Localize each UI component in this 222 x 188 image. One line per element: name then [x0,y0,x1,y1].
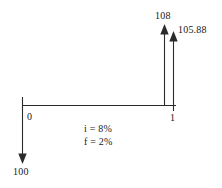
inflow-108-label: 108 [155,11,171,21]
cash-flow-diagram: 108 105.88 0 1 100 i = 8% f = 2% [0,0,222,188]
outflow-arrow-head [18,154,26,165]
inflation-rate-annotation: f = 2% [84,137,113,147]
interest-rate-annotation: i = 8% [84,124,112,134]
period-1-label: 1 [170,113,175,123]
inflow-10588-label: 105.88 [178,25,207,35]
outflow-100-label: 100 [13,167,29,177]
inflow-108-arrow-head [160,24,168,35]
inflow-10588-arrow-head [169,31,177,42]
period-0-label: 0 [27,112,32,122]
